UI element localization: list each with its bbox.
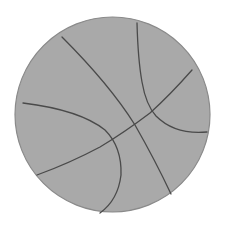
ball-body — [15, 17, 210, 212]
basketball-illustration — [0, 0, 227, 231]
illustration-canvas: basketball — [0, 0, 227, 231]
